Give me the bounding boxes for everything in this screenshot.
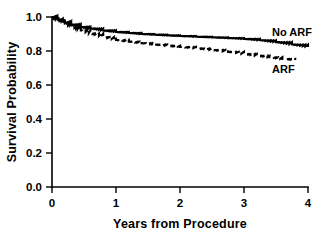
chart-canvas: 1.0 0.8 0.6 0.4 0.2 0.0 0 1 2 3 4 Surviv… [0, 0, 321, 233]
survival-curve-figure: 1.0 0.8 0.6 0.4 0.2 0.0 0 1 2 3 4 Surviv… [0, 0, 321, 233]
x-tick-label-4: 4 [305, 197, 312, 209]
x-tick-label-0: 0 [49, 197, 55, 209]
x-tick-label-3: 3 [241, 197, 247, 209]
x-tick-marks [52, 187, 308, 193]
y-tick-label-0.4: 0.4 [26, 113, 43, 125]
y-tick-label-0.8: 0.8 [26, 45, 43, 57]
y-tick-label-0.2: 0.2 [26, 147, 42, 159]
y-tick-label-1.0: 1.0 [26, 11, 42, 23]
y-tick-marks [46, 17, 52, 187]
series-label-no-arf: No ARF [272, 26, 312, 38]
x-tick-labels: 0 1 2 3 4 [49, 197, 312, 209]
x-axis-title: Years from Procedure [113, 217, 247, 231]
x-tick-label-2: 2 [177, 197, 183, 209]
y-tick-label-0.0: 0.0 [26, 181, 42, 193]
y-tick-labels: 1.0 0.8 0.6 0.4 0.2 0.0 [26, 11, 43, 193]
series-label-arf: ARF [272, 63, 295, 75]
x-tick-label-1: 1 [113, 197, 120, 209]
axes-group [52, 17, 308, 187]
y-tick-label-0.6: 0.6 [26, 79, 42, 91]
y-axis-title: Survival Probability [5, 42, 19, 163]
